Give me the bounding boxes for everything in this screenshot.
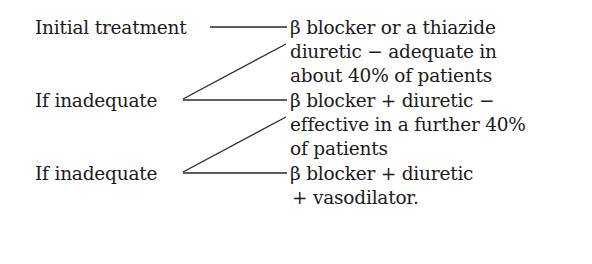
step3-result-line2: + vasodilator. — [292, 189, 419, 208]
connector-step1-to-step2-diagonal — [183, 44, 286, 99]
step1-result-line1: β blocker or a thiazide — [290, 19, 496, 38]
step-label-initial: Initial treatment — [35, 19, 186, 38]
step1-result-line3: about 40% of patients — [290, 67, 492, 86]
step-label-if-inadequate-2: If inadequate — [35, 165, 157, 184]
step2-result-line1: β blocker + diuretic − — [290, 92, 494, 111]
step-label-if-inadequate-1: If inadequate — [35, 92, 157, 111]
step1-result-line2: diuretic − adequate in — [290, 43, 497, 62]
connector-step2-to-step3-diagonal — [183, 117, 286, 172]
step2-result-line2: effective in a further 40% — [290, 116, 526, 135]
step2-result-line3: of patients — [290, 140, 388, 159]
step3-result-line1: β blocker + diuretic — [290, 165, 473, 184]
